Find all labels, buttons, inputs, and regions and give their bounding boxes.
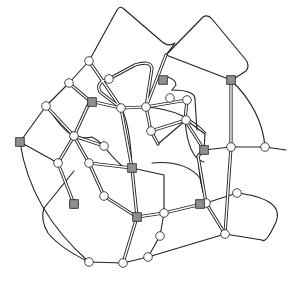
- circle-node-icon: [117, 104, 126, 113]
- road-single: [123, 234, 225, 263]
- road-double-fill: [123, 217, 137, 263]
- road-double-fill: [89, 163, 104, 196]
- circle-node-icon: [85, 57, 94, 66]
- circle-node-icon: [142, 103, 151, 112]
- circle-node-icon: [156, 232, 165, 241]
- square-node-icon: [133, 213, 142, 222]
- road-double-fill: [89, 163, 132, 168]
- road-single: [231, 80, 265, 147]
- circle-node-icon: [85, 159, 94, 168]
- double-line-roads-fill: [46, 55, 231, 263]
- road-single: [20, 142, 58, 163]
- circle-node-icon: [182, 116, 191, 125]
- road-single: [168, 77, 176, 90]
- square-node-icon: [16, 138, 25, 147]
- circle-node-icon: [183, 96, 192, 105]
- road-double-fill: [206, 203, 225, 234]
- circle-node-icon: [233, 189, 242, 198]
- road-single: [225, 193, 277, 241]
- circle-node-icon: [100, 142, 109, 151]
- circle-node-icon: [160, 209, 169, 218]
- circle-node-icon: [105, 75, 114, 84]
- circle-node-icon: [144, 253, 153, 262]
- circle-node-icon: [85, 258, 94, 267]
- road-double-fill: [151, 120, 186, 131]
- circle-node-icon: [261, 143, 270, 152]
- circle-node-icon: [147, 127, 156, 136]
- road-network-diagram: [0, 0, 288, 299]
- square-junction-nodes: [16, 76, 236, 222]
- road-single: [206, 193, 237, 203]
- road-single: [89, 262, 123, 263]
- circle-node-icon: [119, 259, 128, 268]
- circle-node-icon: [166, 94, 175, 103]
- circle-node-icon: [227, 143, 236, 152]
- road-double-fill: [58, 163, 74, 204]
- road-single: [166, 55, 231, 80]
- circle-node-icon: [100, 192, 109, 201]
- circle-node-icon: [65, 79, 74, 88]
- square-node-icon: [70, 200, 79, 209]
- square-node-icon: [128, 164, 137, 173]
- square-node-icon: [227, 76, 236, 85]
- circle-node-icon: [70, 132, 79, 141]
- square-node-icon: [159, 76, 168, 85]
- road-single: [20, 61, 89, 142]
- square-node-icon: [88, 98, 97, 107]
- circle-node-icon: [54, 159, 63, 168]
- road-double-fill: [121, 108, 132, 168]
- circle-node-icon: [221, 230, 230, 239]
- road-double-fill: [104, 196, 137, 217]
- road-double-fill: [132, 168, 137, 217]
- square-node-icon: [200, 146, 209, 155]
- road-single: [152, 163, 206, 203]
- square-node-icon: [196, 200, 205, 209]
- circle-node-icon: [42, 102, 51, 111]
- road-single: [89, 7, 175, 61]
